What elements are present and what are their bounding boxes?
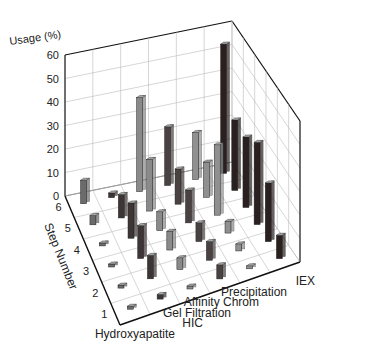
bar bbox=[165, 125, 174, 186]
z-tick-label: 10 bbox=[47, 167, 59, 179]
bar bbox=[118, 192, 127, 218]
category-label: IEX bbox=[296, 274, 315, 288]
z-axis-label: Usage (%) bbox=[9, 28, 62, 47]
bar bbox=[127, 304, 136, 309]
z-tick-label: 30 bbox=[47, 120, 59, 132]
bar bbox=[147, 157, 156, 211]
bar bbox=[81, 178, 90, 204]
bar bbox=[187, 284, 196, 289]
bar bbox=[243, 135, 252, 208]
step-tick-label: 3 bbox=[83, 265, 89, 277]
bar bbox=[137, 96, 146, 192]
bar bbox=[193, 130, 202, 179]
bar bbox=[90, 213, 99, 224]
bar bbox=[157, 292, 166, 299]
bar bbox=[167, 229, 176, 250]
bar bbox=[109, 191, 118, 198]
bar bbox=[196, 221, 205, 242]
bar bbox=[157, 210, 166, 231]
bar bbox=[247, 264, 256, 269]
z-tick-label: 50 bbox=[47, 73, 59, 85]
bar bbox=[206, 239, 215, 260]
category-label: Precipitation bbox=[221, 285, 287, 299]
category-label: Hydroxyapatite bbox=[95, 327, 175, 341]
step-tick-label: 6 bbox=[55, 201, 61, 213]
step-tick-label: 2 bbox=[92, 287, 98, 299]
bar bbox=[138, 224, 147, 259]
z-tick-label: 20 bbox=[47, 143, 59, 155]
bar bbox=[185, 188, 194, 223]
bar bbox=[236, 242, 245, 251]
bar bbox=[175, 167, 184, 204]
bar bbox=[217, 263, 226, 279]
step-tick-label: 4 bbox=[74, 244, 80, 256]
bar bbox=[203, 160, 212, 197]
bar bbox=[99, 241, 108, 246]
z-tick-label: 60 bbox=[47, 49, 59, 61]
bar bbox=[128, 201, 137, 238]
bar bbox=[225, 219, 234, 233]
step-tick-label: 1 bbox=[101, 308, 107, 320]
bar bbox=[232, 118, 241, 191]
bar bbox=[118, 283, 127, 288]
bar bbox=[177, 256, 186, 270]
bar bbox=[265, 181, 274, 242]
bar bbox=[214, 143, 223, 216]
y-axis-label: Step Number bbox=[41, 221, 80, 292]
bar bbox=[276, 233, 285, 259]
bar-chart-3d: 0102030405060123456HydroxyapatiteHICGel … bbox=[0, 0, 366, 357]
bar bbox=[254, 140, 263, 224]
step-tick-label: 5 bbox=[65, 222, 71, 234]
bar bbox=[109, 262, 118, 267]
bar bbox=[147, 253, 156, 279]
z-tick-label: 40 bbox=[47, 96, 59, 108]
